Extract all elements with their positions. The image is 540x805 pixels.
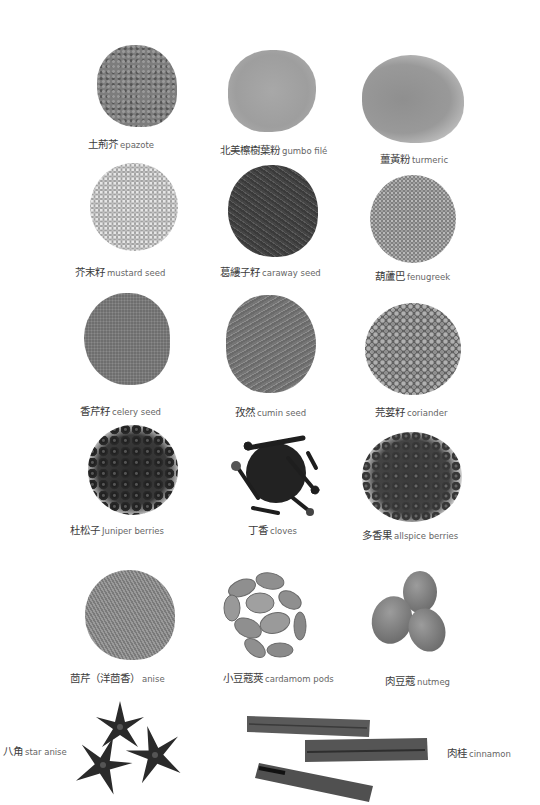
label-zh: 丁香 xyxy=(248,524,268,536)
allspice-berries-image xyxy=(362,432,462,522)
label-zh: 杜松子 xyxy=(70,524,100,536)
label-en: gumbo filé xyxy=(282,146,327,156)
caraway-seed-label: 葛縷子籽caraway seed xyxy=(220,264,321,279)
cumin-seed-label: 孜然cumin seed xyxy=(235,404,306,419)
cardamom-pods-label: 小豆蔻莢cardamom pods xyxy=(223,670,334,685)
cloves-label: 丁香cloves xyxy=(248,522,297,537)
label-zh: 葫蘆巴 xyxy=(375,270,405,282)
gumbo-file-label: 北美檫樹葉粉gumbo filé xyxy=(220,142,327,157)
label-en: mustard seed xyxy=(107,268,165,278)
label-zh: 香芹籽 xyxy=(80,405,110,417)
juniper-berries-label: 杜松子Juniper berries xyxy=(70,522,164,537)
fenugreek-label: 葫蘆巴fenugreek xyxy=(375,268,450,283)
label-zh: 肉桂 xyxy=(447,747,467,759)
cloves-image xyxy=(228,428,323,518)
star-anise-label: 八角star anise xyxy=(3,743,67,758)
label-en: cinnamon xyxy=(469,749,511,759)
cinnamon-image xyxy=(245,710,445,805)
nutmeg-label: 肉豆蔻nutmeg xyxy=(385,673,450,688)
label-en: epazote xyxy=(120,140,154,150)
label-zh: 芫荽籽 xyxy=(375,406,405,418)
cardamom-pods-image xyxy=(220,568,315,663)
label-zh: 小豆蔻莢 xyxy=(223,672,263,684)
label-zh: 孜然 xyxy=(235,406,255,418)
mustard-seed-image xyxy=(90,163,178,251)
epazote-image xyxy=(97,45,177,127)
star-anise-image xyxy=(75,700,185,800)
turmeric-label: 薑黃粉turmeric xyxy=(380,151,448,166)
label-zh: 肉豆蔻 xyxy=(385,675,415,687)
label-zh: 葛縷子籽 xyxy=(220,266,260,278)
label-zh: 多香果 xyxy=(362,529,392,541)
gumbo-file-image xyxy=(228,50,316,132)
epazote-label: 土荊芥epazote xyxy=(88,136,154,151)
label-en: allspice berries xyxy=(394,531,458,541)
caraway-seed-image xyxy=(228,165,318,257)
anise-image xyxy=(85,570,175,660)
anise-label: 茴芹（洋茴香）anise xyxy=(70,670,165,685)
coriander-image xyxy=(365,303,461,395)
label-en: nutmeg xyxy=(417,677,450,687)
label-zh: 芥末籽 xyxy=(75,266,105,278)
label-zh: 茴芹（洋茴香） xyxy=(70,672,140,684)
label-en: fenugreek xyxy=(407,272,450,282)
label-zh: 薑黃粉 xyxy=(380,153,410,165)
nutmeg-image xyxy=(370,570,450,655)
label-en: cardamom pods xyxy=(265,674,334,684)
celery-seed-label: 香芹籽celery seed xyxy=(80,403,161,418)
label-en: turmeric xyxy=(412,155,448,165)
label-en: celery seed xyxy=(112,407,161,417)
coriander-label: 芫荽籽coriander xyxy=(375,404,447,419)
label-en: cumin seed xyxy=(257,408,306,418)
label-zh: 土荊芥 xyxy=(88,138,118,150)
label-en: Juniper berries xyxy=(102,526,164,536)
celery-seed-image xyxy=(84,293,170,385)
fenugreek-image xyxy=(370,175,456,263)
label-en: star anise xyxy=(25,747,67,757)
label-en: cloves xyxy=(270,526,297,536)
label-en: coriander xyxy=(407,408,447,418)
cinnamon-label: 肉桂cinnamon xyxy=(447,745,511,760)
label-en: anise xyxy=(142,674,165,684)
cumin-seed-image xyxy=(226,295,316,393)
label-zh: 北美檫樹葉粉 xyxy=(220,144,280,156)
mustard-seed-label: 芥末籽mustard seed xyxy=(75,264,165,279)
turmeric-image xyxy=(362,55,464,143)
allspice-berries-label: 多香果allspice berries xyxy=(362,527,458,542)
juniper-berries-image xyxy=(88,425,178,515)
label-zh: 八角 xyxy=(3,745,23,757)
label-en: caraway seed xyxy=(262,268,321,278)
